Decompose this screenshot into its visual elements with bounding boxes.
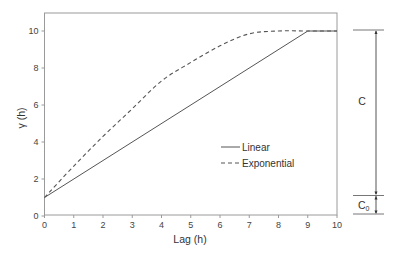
legend: Linear Exponential — [221, 142, 294, 169]
exponential-series-line — [45, 31, 338, 198]
legend-exponential-label: Exponential — [242, 158, 294, 169]
x-tick-label: 9 — [305, 220, 310, 230]
y-tick-label: 10 — [28, 26, 38, 36]
legend-linear-label: Linear — [242, 142, 270, 153]
c0-label: C0 — [358, 199, 370, 213]
y-axis-title: γ (h) — [15, 108, 27, 129]
x-tick-label: 2 — [100, 220, 105, 230]
plot-frame — [45, 13, 338, 215]
y-axis-ticks: 0246810 — [28, 26, 44, 221]
c0-arrow-down-icon — [375, 211, 378, 215]
y-tick-label: 6 — [33, 100, 38, 110]
y-tick-label: 4 — [33, 137, 38, 147]
variogram-chart: 0246810 012345678910 Lag (h) γ (h) Linea… — [0, 0, 398, 255]
x-tick-label: 6 — [217, 220, 222, 230]
sill-annotation: C C0 — [353, 30, 384, 214]
x-tick-label: 3 — [130, 220, 135, 230]
x-tick-label: 10 — [332, 220, 342, 230]
c-label: C — [358, 95, 366, 107]
x-tick-label: 5 — [188, 220, 193, 230]
x-tick-label: 8 — [276, 220, 281, 230]
x-tick-label: 1 — [71, 220, 76, 230]
c0-arrow-up-icon — [375, 196, 378, 200]
y-tick-label: 2 — [33, 174, 38, 184]
y-tick-label: 0 — [33, 211, 38, 221]
y-tick-label: 8 — [33, 63, 38, 73]
x-axis-title: Lag (h) — [173, 233, 206, 245]
x-tick-label: 7 — [247, 220, 252, 230]
c-arrow-up-icon — [375, 31, 378, 35]
linear-series-line — [45, 31, 338, 198]
c0-subscript: 0 — [366, 205, 370, 212]
x-tick-label: 0 — [42, 220, 47, 230]
x-tick-label: 4 — [159, 220, 164, 230]
x-axis-ticks: 012345678910 — [42, 215, 342, 230]
c-arrow-down-icon — [375, 192, 378, 196]
